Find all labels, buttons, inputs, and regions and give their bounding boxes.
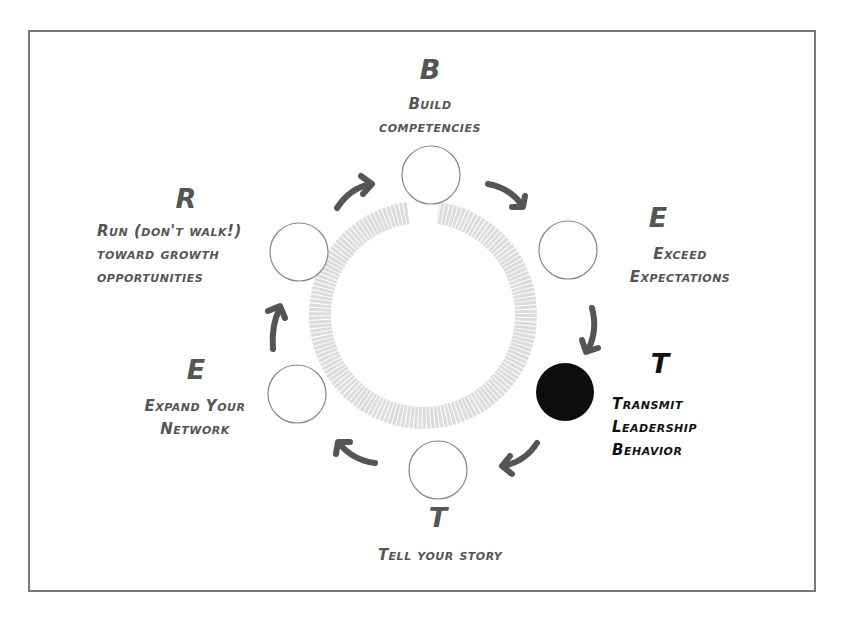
label-line: Exceed — [600, 243, 760, 266]
step-label-r: Run (don't walk!) toward growth opportun… — [97, 220, 277, 289]
step-label-b: Build competencies — [350, 93, 510, 139]
step-label-e-exceed: Exceed Expectations — [600, 243, 760, 289]
label-line: Behavior — [612, 439, 772, 462]
node-e-expand — [268, 365, 326, 423]
label-line: Network — [120, 418, 270, 441]
step-letter-b: B — [400, 54, 460, 85]
label-line: competencies — [350, 116, 510, 139]
step-letter-r: R — [166, 183, 206, 214]
node-t-transmit — [536, 363, 594, 421]
label-line: Leadership — [612, 416, 772, 439]
label-line: Transmit — [612, 393, 772, 416]
label-line: opportunities — [97, 266, 277, 289]
step-label-e-expand: Expand Your Network — [120, 395, 270, 441]
node-e-exceed — [539, 221, 597, 279]
arrow-icon-e-to-t — [582, 308, 598, 352]
arrow-icon-r-to-b — [337, 176, 372, 208]
step-letter-t-tell: T — [418, 502, 458, 533]
arrow-icon-expand-to-r — [268, 306, 285, 349]
arrow-icon-b-to-e — [488, 184, 525, 207]
label-line: Run (don't walk!) — [97, 220, 277, 243]
step-letter-e-exceed: E — [638, 202, 678, 233]
center-ring-icon — [320, 213, 526, 418]
step-label-t-tell: Tell your story — [340, 544, 540, 567]
step-label-t-transmit: Transmit Leadership Behavior — [612, 393, 772, 462]
node-t-tell — [409, 441, 467, 499]
arrow-icon-tell-to-expand — [336, 442, 375, 463]
label-line: Expectations — [600, 266, 760, 289]
label-line: Expand Your — [120, 395, 270, 418]
step-letter-e-expand: E — [176, 354, 216, 385]
arrow-icon-t-to-tell — [502, 443, 537, 474]
node-r — [270, 223, 328, 281]
label-line: toward growth — [97, 243, 277, 266]
node-b — [402, 146, 460, 204]
label-line: Build — [350, 93, 510, 116]
step-letter-t-transmit: T — [640, 348, 680, 379]
label-line: Tell your story — [340, 544, 540, 567]
